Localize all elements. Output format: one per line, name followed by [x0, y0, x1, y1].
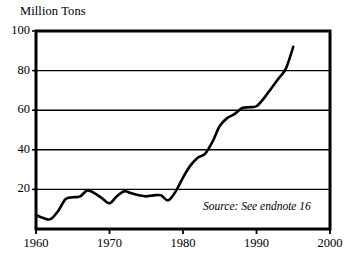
y-tick-label: 40 [0, 143, 30, 156]
data-line [36, 47, 293, 220]
gridlines-group [36, 71, 330, 190]
plot-area [0, 0, 355, 262]
chart-figure: Million Tons 20406080100 196019701980199… [0, 0, 355, 262]
x-tick-label: 1970 [88, 237, 132, 250]
y-tick-label: 60 [0, 103, 30, 116]
source-annotation: Source: See endnote 16 [203, 200, 311, 213]
x-tick-label: 1990 [235, 237, 279, 250]
data-series-group [36, 47, 293, 220]
y-tick-label: 20 [0, 182, 30, 195]
x-tick-label: 1980 [161, 237, 205, 250]
x-tick-label: 1960 [14, 237, 58, 250]
x-tick-label: 2000 [308, 237, 352, 250]
y-tick-label: 100 [0, 24, 30, 37]
y-tick-label: 80 [0, 64, 30, 77]
